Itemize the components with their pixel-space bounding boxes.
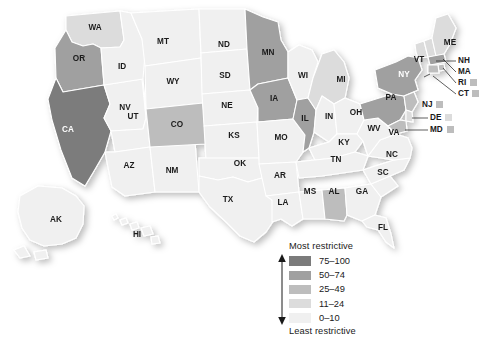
- legend-row: 25–49: [274, 282, 398, 296]
- state-ME[interactable]: [432, 14, 456, 56]
- state-NY[interactable]: [375, 56, 422, 96]
- callout-label-MD: MD: [430, 125, 443, 134]
- legend-range-label: 0–10: [319, 313, 340, 323]
- legend-row: 75–100: [274, 254, 398, 268]
- legend-range-label: 25–49: [319, 284, 345, 294]
- state-AR[interactable]: [259, 162, 299, 196]
- legend-swatch: [289, 299, 311, 309]
- state-NJ[interactable]: [404, 92, 418, 112]
- state-WY[interactable]: [145, 58, 203, 109]
- state-DE[interactable]: [406, 110, 413, 122]
- state-SD[interactable]: [201, 49, 250, 94]
- callout-swatch-CT: [472, 90, 479, 97]
- state-CA[interactable]: [48, 78, 111, 186]
- legend-range-label: 50–74: [319, 270, 345, 280]
- legend-range-label: 11–24: [319, 299, 344, 309]
- callout-label-NJ: NJ: [422, 100, 432, 109]
- callout-swatch-NJ: [436, 101, 443, 108]
- state-AK[interactable]: [14, 186, 84, 260]
- map-legend: Most restrictive 75–10050–7425–4911–240–…: [274, 241, 398, 339]
- state-MN[interactable]: [245, 9, 288, 90]
- callout-swatch-MD: [447, 126, 454, 133]
- us-states-map: WA OR CA NV ID MT WY UT AZ NM CO ND SD N…: [0, 0, 484, 341]
- state-LA[interactable]: [266, 192, 303, 226]
- state-CT[interactable]: [428, 65, 439, 73]
- tick-mark-ne-1: [424, 74, 430, 77]
- callout-label-MA: MA: [458, 67, 471, 76]
- state-KS[interactable]: [204, 122, 259, 160]
- state-HI[interactable]: [112, 214, 160, 244]
- legend-top-caption: Most restrictive: [289, 241, 353, 251]
- legend-row: 11–24: [274, 297, 398, 311]
- state-MS[interactable]: [299, 190, 325, 219]
- callout-label-DE: DE: [430, 113, 442, 122]
- state-NM[interactable]: [150, 142, 199, 192]
- choropleth-map-figure: WA OR CA NV ID MT WY UT AZ NM CO ND SD N…: [0, 0, 484, 341]
- legend-range-label: 75–100: [319, 256, 350, 266]
- legend-row: 50–74: [274, 268, 398, 282]
- legend-swatch: [289, 285, 311, 295]
- state-NV[interactable]: [104, 79, 146, 131]
- state-AZ[interactable]: [105, 147, 155, 196]
- state-AL[interactable]: [322, 188, 347, 221]
- legend-row: 0–10: [274, 311, 398, 325]
- state-NE[interactable]: [202, 90, 258, 126]
- legend-bottom-caption: Least restrictive: [289, 326, 356, 336]
- state-ND[interactable]: [199, 9, 247, 53]
- legend-swatch: [289, 271, 311, 281]
- state-CO[interactable]: [146, 103, 206, 147]
- callout-swatch-RI: [470, 79, 477, 86]
- state-label-HI: HI: [133, 230, 141, 239]
- callout-label-CT: CT: [458, 89, 469, 98]
- callout-label-NH: NH: [458, 56, 470, 65]
- callout-label-RI: RI: [458, 78, 466, 87]
- legend-swatch: [289, 256, 311, 266]
- callout-swatch-DE: [445, 114, 452, 121]
- legend-scale: 75–10050–7425–4911–240–10: [274, 254, 398, 325]
- legend-swatch: [289, 313, 311, 323]
